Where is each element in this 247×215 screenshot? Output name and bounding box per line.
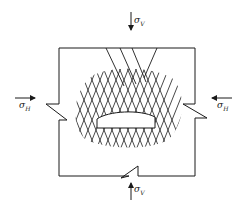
label-sigma-h-left: σH bbox=[19, 101, 30, 112]
stress-diagram bbox=[0, 0, 247, 215]
subscript: H bbox=[25, 105, 30, 112]
label-sigma-v-bottom: σV bbox=[134, 185, 145, 196]
subscript: H bbox=[223, 105, 228, 112]
label-sigma-h-right: σH bbox=[217, 101, 228, 112]
subscript: V bbox=[140, 189, 144, 196]
fracture-zone-hatch bbox=[44, 60, 204, 160]
diagram-canvas: σV σV σH σH bbox=[0, 0, 247, 215]
label-sigma-v-top: σV bbox=[134, 16, 145, 27]
subscript: V bbox=[140, 20, 144, 27]
